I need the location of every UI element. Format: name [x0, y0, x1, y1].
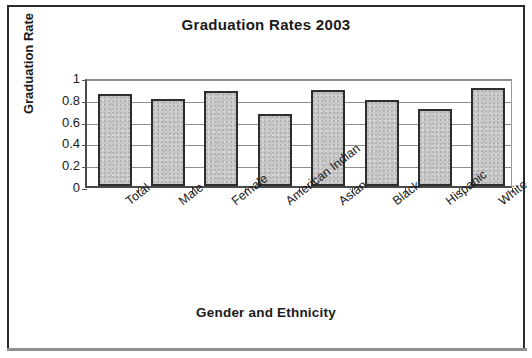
y-tick-mark: [82, 80, 87, 81]
bar-black: [365, 100, 399, 186]
bar-hispanic: [418, 109, 452, 186]
y-axis-tick-labels: 00.20.40.60.81: [38, 79, 80, 188]
chart-title: Graduation Rates 2003: [0, 16, 532, 33]
x-axis-tick-labels: TotalMaleFemaleAmerican IndianAsianBlack…: [0, 193, 532, 283]
x-axis-title: Gender and Ethnicity: [0, 305, 532, 320]
y-axis-title: Graduation Rate: [21, 0, 36, 129]
y-tick-label: 0.6: [46, 116, 80, 129]
plot-area: [85, 79, 512, 188]
y-tick-mark: [82, 124, 87, 125]
y-tick-label: 0.2: [46, 159, 80, 172]
gridline: [87, 80, 511, 81]
y-tick-mark: [82, 145, 87, 146]
y-tick-mark: [82, 102, 87, 103]
y-tick-label: 0.4: [46, 137, 80, 150]
chart-page: Graduation Rates 2003 Graduation Rate 00…: [0, 0, 532, 358]
figure-frame-shadow: [7, 348, 527, 351]
y-tick-mark: [82, 167, 87, 168]
bar-male: [151, 99, 185, 186]
y-tick-mark: [82, 189, 87, 190]
y-tick-label: 1: [46, 72, 80, 85]
y-tick-label: 0.8: [46, 94, 80, 107]
bar-total: [98, 94, 132, 186]
bar-female: [204, 91, 238, 186]
